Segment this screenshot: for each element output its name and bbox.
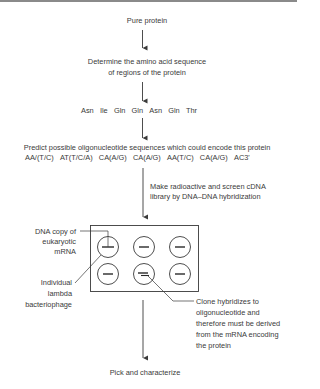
codon: CA(A/G)	[133, 153, 161, 162]
leader-lambda	[75, 255, 101, 283]
codon: AA(T/C)	[167, 153, 194, 162]
codon: AA/(T/C)	[25, 153, 54, 162]
label-dna-copy-line2: eukaryotic	[42, 237, 76, 247]
amino-acid: Gln	[168, 106, 180, 115]
label-lambda-line2: lambda	[48, 289, 72, 299]
step-screen-line2: library by DNA–DNA hybridization	[150, 192, 261, 202]
codon: AT(T/C/A)	[60, 153, 93, 162]
petri-plate	[91, 226, 199, 292]
label-clone-line5: the protein	[196, 341, 231, 351]
step-pure-protein: Pure protein	[127, 16, 167, 26]
step-determine-line2: of regions of the protein	[108, 68, 186, 78]
label-lambda-line1: Individual	[41, 278, 72, 288]
label-clone-line4: from the mRNA encoding	[196, 330, 279, 340]
label-dna-copy-line1: DNA copy of	[35, 227, 76, 237]
codon: CA(A/G)	[99, 153, 127, 162]
amino-acid: Thr	[186, 106, 197, 115]
oligo-sequence: AA/(T/C) AT(T/C/A) CA(A/G) CA(A/G) AA(T/…	[25, 153, 250, 163]
amino-acid: Asn	[81, 106, 94, 115]
label-dna-copy-line3: mRNA	[54, 247, 76, 257]
step-pick-characterize: Pick and characterize	[110, 368, 181, 378]
step-predict: Predict possible oligonucleotide sequenc…	[24, 143, 271, 153]
leader-dna-copy	[80, 231, 108, 247]
amino-acid: Gln	[114, 106, 126, 115]
amino-acid: Asn	[149, 106, 162, 115]
step-determine-line1: Determine the amino acid sequence	[88, 57, 206, 67]
amino-acid: Ile	[100, 106, 108, 115]
label-clone-line3: therefore must be derived	[196, 319, 280, 329]
step-screen-line1: Make radioactive and screen cDNA	[150, 182, 266, 192]
amino-acid: Gln	[132, 106, 144, 115]
plaque-5-positive	[134, 264, 155, 285]
label-clone-line2: oligonucleotide and	[196, 308, 260, 318]
label-lambda-line3: bacteriophage	[25, 300, 72, 310]
codon: CA(A/G)	[200, 153, 228, 162]
label-clone-line1: Clone hybridizes to	[196, 297, 259, 307]
codon: AC3'	[234, 153, 250, 162]
amino-acid-sequence: Asn Ile Gln Gln Asn Gln Thr	[81, 106, 197, 116]
